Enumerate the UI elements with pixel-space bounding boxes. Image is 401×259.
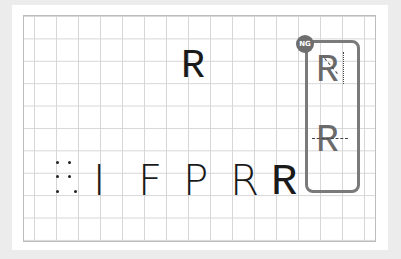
ng-example-letter-2: R xyxy=(316,122,339,160)
proto-symbol-dots xyxy=(55,160,75,200)
ng-guide-horizontal xyxy=(312,138,348,139)
stage-letter-r-sans: R xyxy=(230,160,259,202)
stage-letter-r-serif: R xyxy=(271,160,297,204)
stage-letter-i: I xyxy=(93,160,105,202)
featured-letter: R xyxy=(181,47,205,87)
stage-letter-p: P xyxy=(183,160,208,202)
ng-badge: NG xyxy=(296,35,314,53)
ng-guide-vertical xyxy=(343,52,344,84)
stage-letter-f: F xyxy=(138,160,162,202)
